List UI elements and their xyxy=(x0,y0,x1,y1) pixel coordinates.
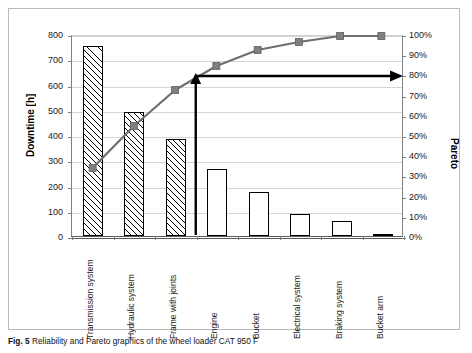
x-axis-label-5: Bucket xyxy=(251,243,265,339)
y-axis-right-tickmark xyxy=(402,76,406,77)
y-axis-right-tickmark xyxy=(402,157,406,158)
figure-caption: Fig. 5 Reliability and Pareto graphics o… xyxy=(8,336,464,346)
x-axis-tickmark xyxy=(72,236,73,240)
y-axis-left-tickmark xyxy=(68,36,72,37)
y-axis-left-tick-label: 400 xyxy=(23,132,63,141)
y-axis-right-tickmark xyxy=(402,36,406,37)
pareto-line-overlay xyxy=(72,36,402,236)
y-axis-right-tick-label: 10% xyxy=(409,213,449,222)
x-axis-tickmark xyxy=(321,236,322,240)
y-axis-left-tick-label: 0 xyxy=(23,233,63,242)
y-axis-left-tick-label: 800 xyxy=(23,31,63,40)
pareto-marker-8 xyxy=(378,33,385,40)
x-axis-label-1: Transmission system xyxy=(85,243,99,339)
y-axis-right-tick-label: 50% xyxy=(409,132,449,141)
pareto-marker-4 xyxy=(213,63,220,70)
y-axis-left-tickmark xyxy=(68,188,72,189)
x-axis-label-2: Hydraulic system xyxy=(126,243,140,339)
x-axis-label-4: Engine xyxy=(209,243,223,339)
y-axis-right-title: Pareto xyxy=(447,119,461,189)
y-axis-left-tickmark xyxy=(68,213,72,214)
y-axis-right-tick-label: 0% xyxy=(409,233,449,242)
figure-caption-text: Reliability and Pareto graphics of the w… xyxy=(32,336,258,346)
chart-frame: Downtime [h] Pareto 01002003004005006007… xyxy=(8,8,460,330)
y-axis-left-tick-label: 200 xyxy=(23,183,63,192)
x-axis-label-7: Braking system xyxy=(334,243,348,339)
x-axis-label-6: Electrical system xyxy=(292,243,306,339)
x-axis-tickmark xyxy=(197,236,198,240)
pareto-marker-3 xyxy=(172,87,179,94)
y-axis-right-tick-label: 60% xyxy=(409,112,449,121)
y-axis-right-tickmark xyxy=(402,198,406,199)
y-axis-right-tick-label: 40% xyxy=(409,152,449,161)
pareto-marker-7 xyxy=(337,33,344,40)
pareto-marker-6 xyxy=(295,39,302,46)
x-axis-label-8: Bucket arm xyxy=(375,243,389,339)
y-axis-right-tickmark xyxy=(402,177,406,178)
y-axis-right-tickmark xyxy=(402,117,406,118)
x-axis-label-3: Frame with joints xyxy=(168,243,182,339)
y-axis-right-tick-label: 20% xyxy=(409,193,449,202)
y-axis-left-tick-label: 300 xyxy=(23,157,63,166)
figure-root: Downtime [h] Pareto 01002003004005006007… xyxy=(0,0,472,353)
figure-caption-label: Fig. 5 xyxy=(8,336,30,346)
y-axis-right-tickmark xyxy=(402,137,406,138)
y-axis-right-tickmark xyxy=(402,238,406,239)
y-axis-right-tickmark xyxy=(402,218,406,219)
y-axis-left-tick-label: 600 xyxy=(23,82,63,91)
y-axis-left-tickmark xyxy=(68,238,72,239)
y-axis-left-tickmark xyxy=(68,61,72,62)
x-axis-tickmark xyxy=(114,236,115,240)
pareto-line xyxy=(93,36,382,168)
y-axis-left-tick-label: 700 xyxy=(23,56,63,65)
pareto-marker-5 xyxy=(254,47,261,54)
x-axis-tickmark xyxy=(363,236,364,240)
x-axis-tickmark xyxy=(155,236,156,240)
pareto-marker-1 xyxy=(89,165,96,172)
y-axis-left-tickmark xyxy=(68,162,72,163)
y-axis-right-tickmark xyxy=(402,97,406,98)
y-axis-left-tickmark xyxy=(68,137,72,138)
y-axis-right-tick-label: 30% xyxy=(409,172,449,181)
plot-area xyxy=(71,35,403,237)
y-axis-left-tick-label: 100 xyxy=(23,208,63,217)
y-axis-right-tickmark xyxy=(402,56,406,57)
pareto-marker-2 xyxy=(130,123,137,130)
x-axis-tickmark xyxy=(238,236,239,240)
y-axis-right-tick-label: 100% xyxy=(409,31,449,40)
y-axis-right-tick-label: 80% xyxy=(409,71,449,80)
x-axis-tickmark xyxy=(280,236,281,240)
y-axis-right-tick-label: 90% xyxy=(409,51,449,60)
y-axis-left-tickmark xyxy=(68,112,72,113)
y-axis-left-tick-label: 500 xyxy=(23,107,63,116)
y-axis-right-tick-label: 70% xyxy=(409,92,449,101)
gridline xyxy=(72,238,402,239)
y-axis-left-tickmark xyxy=(68,87,72,88)
